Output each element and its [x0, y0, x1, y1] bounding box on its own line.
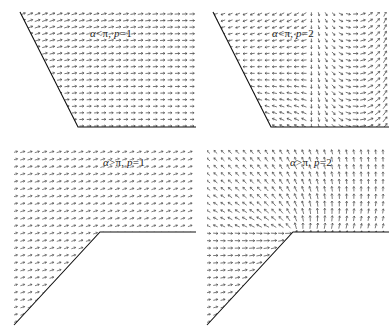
quiver-plot-bl: [0, 140, 196, 330]
panel-alpha-gt-pi-p1: [0, 140, 196, 330]
panel-label-tr: α<π, p=2: [272, 27, 314, 39]
panel-label-br: α>π, p=2: [290, 156, 332, 168]
figure-vector-fields: α<π, p=1 α<π, p=2 α>π, p=1: [0, 0, 389, 330]
label-pval-bl: 1: [139, 156, 145, 168]
quiver-plot-tl: [0, 0, 196, 140]
panel-label-tl: α<π, p=1: [90, 27, 132, 39]
quiver-plot-br: [193, 140, 389, 330]
panel-label-bl: α>π, p=1: [103, 156, 145, 168]
label-pval-br: 2: [326, 156, 332, 168]
quiver-plot-tr: [193, 0, 389, 140]
label-pval-tl: 1: [126, 27, 132, 39]
panel-alpha-gt-pi-p2: [193, 140, 389, 330]
panel-alpha-lt-pi-p1: [0, 0, 196, 140]
panel-alpha-lt-pi-p2: [193, 0, 389, 140]
label-pval-tr: 2: [308, 27, 314, 39]
boundary-br: [207, 232, 389, 325]
boundary-bl: [14, 232, 196, 325]
